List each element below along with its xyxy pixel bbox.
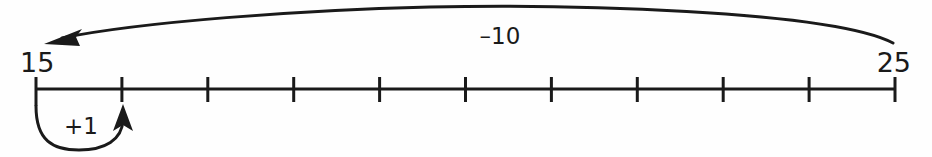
- minus-ten-jump-label: –10: [480, 23, 521, 49]
- number-line-start-label: 15: [20, 47, 54, 78]
- minus-ten-arc: [62, 6, 893, 43]
- plus-one-jump-label: +1: [64, 113, 98, 139]
- tick-mark-group: [36, 77, 895, 106]
- number-line-end-label: 25: [877, 47, 911, 78]
- minus-ten-arrowhead-icon: [44, 29, 82, 46]
- number-line-figure: 15 25 –10 +1: [0, 0, 932, 157]
- number-line-diagram: 15 25 –10 +1: [0, 0, 932, 157]
